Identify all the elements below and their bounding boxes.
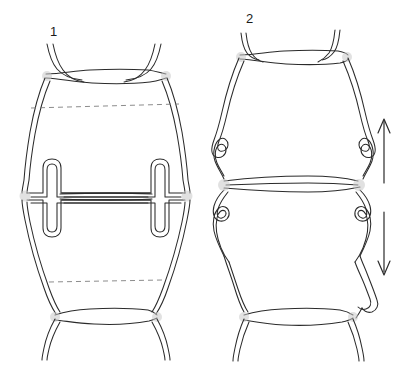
fig2-middle-wall-lower-line — [224, 187, 360, 192]
fig2-top-transverse-wall — [236, 50, 352, 64]
fig1-bottom-right-arm-outer — [157, 319, 170, 360]
fig1-middle-wall-upper-line — [60, 193, 152, 194]
figure-root: 1 — [0, 0, 405, 380]
fig1-bottom-wall-lower-line — [55, 318, 157, 324]
fig1-middle-transverse-wall — [20, 159, 193, 237]
fig1-bottom-right-arm-inner — [152, 322, 165, 360]
fig1-right-hairpin-upper-outer — [62, 159, 185, 193]
fig2-middle-wall-center-line — [226, 183, 358, 185]
panel-1-group: 1 — [20, 24, 193, 360]
fig1-top-left-node — [42, 71, 52, 81]
growth-direction-arrows — [378, 119, 390, 275]
fig2-upper-left-wall-outer — [212, 58, 239, 176]
fig2-lower-left-wall-outer — [224, 256, 244, 312]
fig1-bottom-transverse-wall — [50, 308, 162, 324]
fig1-top-left-arm-inner — [53, 44, 84, 82]
fig2-top-right-node — [342, 52, 352, 62]
fig1-bottom-left-node — [50, 312, 60, 322]
fig2-top-wall-lower-line — [240, 59, 348, 65]
fig1-top-right-arm-outer — [126, 44, 161, 80]
fig1-middle-wall-lower-line — [60, 199, 152, 200]
fig1-top-right-arm-inner — [124, 44, 155, 82]
fig1-upper-left-wall-outer — [22, 78, 45, 193]
fig1-bottom-apex — [42, 319, 170, 360]
panel-2-group: 2 — [212, 11, 378, 361]
fig1-left-hairpin-upper-outer — [27, 159, 150, 193]
fig1-upper-dashed-reference-line — [31, 104, 179, 108]
fig2-upper-left-wall-inner — [214, 61, 244, 179]
fig2-lower-left-loop-inner — [216, 192, 229, 262]
fig1-bottom-right-node — [152, 312, 162, 322]
fig2-lower-right-loop-inner — [355, 192, 368, 262]
fig1-top-wall-lower-line — [46, 78, 166, 84]
cell-diagram-svg: 1 — [0, 0, 405, 380]
fig2-bottom-wall-upper-line — [244, 308, 353, 315]
fig1-right-hairpin-lower-inner — [64, 203, 181, 232]
fig1-bottom-wall-upper-line — [55, 308, 157, 315]
fig2-bottom-left-node — [239, 312, 249, 322]
up-arrow-icon — [378, 119, 390, 183]
fig2-middle-wall-upper-line — [224, 176, 358, 181]
panel-2-label: 2 — [246, 11, 253, 26]
fig2-bottom-left-arm-inner — [238, 322, 249, 361]
fig2-bottom-transverse-wall — [239, 308, 358, 325]
fig2-lower-left-loop-outer — [213, 190, 229, 256]
fig1-bottom-left-arm-inner — [47, 322, 60, 360]
fig1-right-hairpin-lower-outer — [62, 200, 185, 237]
fig2-top-right-arm-outer — [322, 30, 340, 60]
fig1-bottom-left-arm-outer — [42, 319, 55, 360]
fig2-middle-right-node — [353, 179, 365, 191]
panel-1-label: 1 — [50, 24, 57, 39]
fig2-bottom-right-arm-inner — [348, 322, 359, 361]
fig1-upper-right-wall-outer — [167, 78, 190, 193]
fig1-left-hairpin-upper-inner — [31, 164, 148, 197]
fig1-top-apex — [47, 44, 161, 82]
fig1-top-left-arm-outer — [47, 44, 82, 80]
fig1-top-transverse-wall — [42, 69, 171, 83]
fig2-bottom-right-node — [348, 312, 358, 322]
fig2-top-right-arm-inner — [318, 30, 335, 62]
fig1-left-hairpin-lower-outer — [27, 200, 150, 237]
fig1-lower-dashed-reference-line — [49, 280, 163, 282]
fig2-upper-cell-walls — [212, 58, 375, 179]
fig2-top-apex — [241, 30, 340, 62]
down-arrow-icon — [378, 212, 390, 275]
fig2-lower-right-wall-outer — [360, 256, 378, 312]
fig2-lower-right-loop-outer — [355, 190, 371, 256]
fig2-middle-left-node — [218, 179, 230, 191]
fig1-middle-right-node — [182, 191, 193, 202]
fig2-bottom-wall-lower-line — [244, 318, 353, 325]
fig2-upper-right-wall-inner — [343, 61, 373, 179]
fig2-top-left-arm-inner — [246, 33, 263, 62]
fig2-middle-transverse-wall — [213, 176, 371, 262]
fig2-lower-left-wall-inner — [229, 262, 248, 312]
fig1-middle-left-node — [20, 191, 31, 202]
fig1-left-hairpin-lower-inner — [31, 203, 148, 232]
fig2-lower-right-wall-inner — [355, 262, 371, 309]
fig2-upper-right-wall-outer — [348, 58, 375, 176]
fig1-right-hairpin-upper-inner — [64, 164, 181, 197]
fig1-top-right-node — [161, 71, 171, 81]
